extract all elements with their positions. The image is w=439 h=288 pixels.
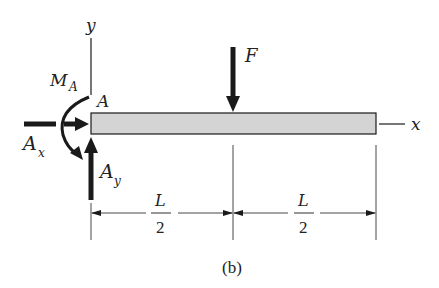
horizontal-reaction-label: A (21, 132, 37, 154)
dimension-left-numerator: L (154, 191, 166, 210)
free-body-diagram: y x A M A A x A y F (0, 0, 439, 288)
vertical-reaction-arrow-icon (84, 137, 98, 200)
moment-label: M (49, 70, 68, 90)
point-a-label: A (95, 91, 109, 111)
figure-caption: (b) (222, 258, 242, 277)
dimension-right-denominator: 2 (299, 218, 308, 237)
vertical-reaction-subscript: y (113, 174, 121, 188)
dimension-right: L 2 (234, 191, 375, 237)
applied-load-arrow-icon (226, 47, 240, 112)
extension-lines (91, 145, 376, 240)
y-axis: y (85, 15, 96, 95)
beam (91, 113, 376, 134)
vertical-reaction-label: A (98, 160, 114, 182)
dimension-left: L 2 (92, 191, 232, 237)
dimension-left-denominator: 2 (156, 218, 165, 237)
moment-subscript: A (68, 80, 78, 94)
x-axis: x (379, 114, 421, 134)
x-axis-label: x (411, 114, 421, 134)
dimension-right-numerator: L (297, 191, 309, 210)
horizontal-reaction-arrow-icon (24, 117, 89, 131)
applied-load-label: F (244, 45, 259, 66)
horizontal-reaction-subscript: x (38, 146, 45, 160)
y-axis-label: y (85, 15, 96, 35)
